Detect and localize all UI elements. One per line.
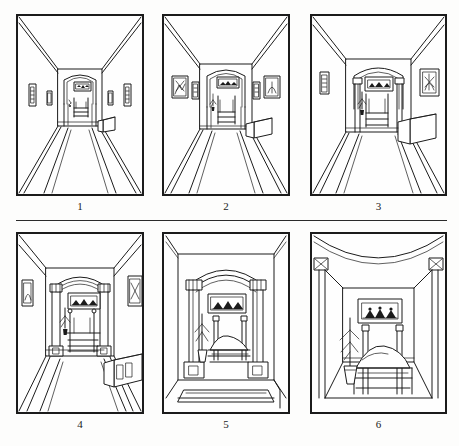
panel-4-caption: 4 — [16, 418, 144, 430]
panel-6-drawing — [310, 232, 447, 414]
panel-5-caption: 5 — [162, 418, 290, 430]
panel-6: 6 — [310, 232, 447, 414]
panel-2-caption: 2 — [162, 200, 290, 212]
panel-2: 2 — [162, 14, 290, 196]
panel-3-caption: 3 — [310, 200, 447, 212]
panel-1: 1 — [16, 14, 144, 196]
panel-4: 4 — [16, 232, 144, 414]
panel-1-caption: 1 — [16, 200, 144, 212]
panel-5-drawing — [162, 232, 290, 414]
panel-4-drawing — [16, 232, 144, 414]
panel-1-drawing — [16, 14, 144, 196]
panel-6-caption: 6 — [310, 418, 447, 430]
panel-3-drawing — [310, 14, 447, 196]
row-separator-rule — [16, 220, 447, 221]
panel-5: 5 — [162, 232, 290, 414]
panel-3: 3 — [310, 14, 447, 196]
figure-plate: 1 — [0, 0, 459, 446]
panel-2-drawing — [162, 14, 290, 196]
